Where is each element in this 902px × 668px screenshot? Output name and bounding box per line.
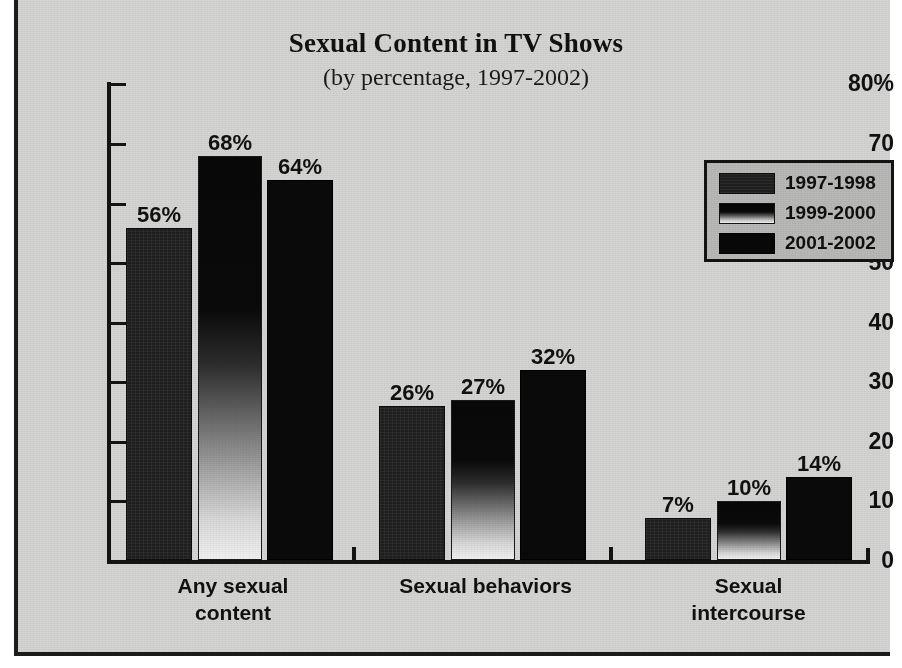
bar-any-sexual-content-1997-1998[interactable] xyxy=(126,228,192,560)
y-label-40: 40 xyxy=(814,309,894,336)
legend-label-2001-2002: 2001-2002 xyxy=(785,231,876,255)
bar-value-sexual-intercourse-2001-2002: 14% xyxy=(774,451,864,477)
bar-value-sexual-behaviors-1999-2000: 27% xyxy=(438,374,528,400)
y-tick-40 xyxy=(111,322,126,325)
y-tick-80 xyxy=(111,83,126,86)
y-tick-50 xyxy=(111,262,126,265)
bar-sexual-behaviors-1997-1998[interactable] xyxy=(379,406,445,560)
x-category-label-line1: Any sexual xyxy=(118,572,348,599)
bar-value-any-sexual-content-1997-1998: 56% xyxy=(114,202,204,228)
x-group-separator-tick-1 xyxy=(352,547,356,561)
bar-sexual-intercourse-1999-2000[interactable] xyxy=(717,501,781,560)
legend-swatch-1999-2000-icon xyxy=(719,203,775,224)
bar-sexual-intercourse-2001-2002[interactable] xyxy=(786,477,852,560)
bar-sexual-intercourse-1997-1998[interactable] xyxy=(645,518,711,560)
plot-area: 80% 70 60 50 40 30 20 10 0 56% xyxy=(18,0,894,656)
bar-value-sexual-behaviors-2001-2002: 32% xyxy=(508,344,598,370)
y-tick-30 xyxy=(111,381,126,384)
bar-value-sexual-intercourse-1999-2000: 10% xyxy=(704,475,794,501)
x-category-label-any-sexual-content: Any sexual content xyxy=(118,572,348,626)
legend-label-1999-2000: 1999-2000 xyxy=(785,201,876,225)
legend-label-1997-1998: 1997-1998 xyxy=(785,171,876,195)
y-label-70: 70 xyxy=(814,130,894,157)
legend: 1997-1998 1999-2000 2001-2002 xyxy=(704,160,894,262)
legend-swatch-2001-2002-icon xyxy=(719,233,775,254)
bar-any-sexual-content-1999-2000[interactable] xyxy=(198,156,262,560)
x-group-separator-tick-2 xyxy=(609,547,613,561)
y-tick-20 xyxy=(111,441,126,444)
bar-value-any-sexual-content-1999-2000: 68% xyxy=(185,130,275,156)
x-category-label-sexual-intercourse: Sexual intercourse xyxy=(636,572,861,626)
x-category-label-line2: intercourse xyxy=(636,599,861,626)
x-axis-line xyxy=(107,560,870,564)
scanned-page: Sexual Content in TV Shows (by percentag… xyxy=(0,0,902,668)
x-category-label-line2: content xyxy=(118,599,348,626)
bar-sexual-behaviors-2001-2002[interactable] xyxy=(520,370,586,560)
x-category-label-sexual-behaviors: Sexual behaviors xyxy=(373,572,598,599)
y-label-30: 30 xyxy=(814,368,894,395)
x-category-label-line1: Sexual xyxy=(636,572,861,599)
bar-any-sexual-content-2001-2002[interactable] xyxy=(267,180,333,560)
chart-canvas: Sexual Content in TV Shows (by percentag… xyxy=(14,0,890,656)
y-label-80: 80% xyxy=(814,70,894,97)
y-tick-70 xyxy=(111,143,126,146)
y-tick-10 xyxy=(111,500,126,503)
legend-swatch-1997-1998-icon xyxy=(719,173,775,194)
bar-sexual-behaviors-1999-2000[interactable] xyxy=(451,400,515,560)
x-category-label-line1: Sexual behaviors xyxy=(373,572,598,599)
bar-value-any-sexual-content-2001-2002: 64% xyxy=(255,154,345,180)
